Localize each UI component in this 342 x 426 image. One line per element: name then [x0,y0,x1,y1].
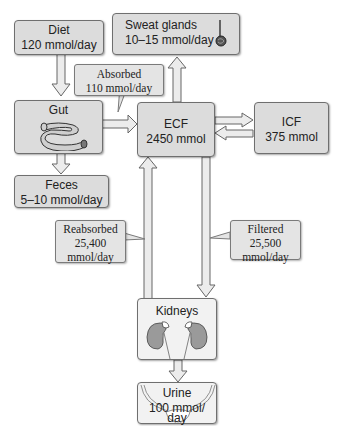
urine-title: Urine [138,386,216,401]
gut-node: Gut [14,100,103,154]
ecf-node: ECF 2450 mmol [137,102,215,157]
filtered-callout: Filtered 25,500 mmol/day [230,220,301,260]
flow-arrows [0,0,342,426]
kidneys-node: Kidneys [137,298,217,360]
arrow-diet-to-gut [52,54,70,96]
kidneys-title: Kidneys [138,304,216,319]
feces-value: 5–10 mmol/day [15,193,108,208]
ecf-value: 2450 mmol [138,132,214,147]
feces-title: Feces [15,178,108,193]
intestine-icon [39,119,89,151]
filtered-pointer [210,232,230,239]
arrow-gut-to-ecf [102,115,137,133]
reabsorbed-callout: Reabsorbed 25,400 mmol/day [55,220,126,263]
sweat-gland-icon [214,19,230,49]
filtered-label: Filtered [231,222,300,236]
gut-title: Gut [15,103,102,118]
arrow-ecf-to-icf [215,113,253,127]
arrow-ecf-to-kidneys [197,157,215,297]
reabsorbed-pointer [124,233,145,240]
icf-node: ICF 375 mmol [254,102,329,154]
arrow-icf-to-ecf [215,126,253,140]
feces-node: Feces 5–10 mmol/day [14,175,109,208]
absorbed-label: Absorbed [75,67,163,81]
filtered-unit: mmol/day [231,250,300,264]
filtered-value: 25,500 [231,236,300,250]
reabsorbed-unit: mmol/day [56,250,125,264]
diet-node: Diet 120 mmol/day [14,20,104,55]
ecf-title: ECF [138,117,214,132]
icf-title: ICF [255,115,328,130]
absorbed-value: 110 mmol/day [75,81,163,95]
urine-value-line2: day [137,411,217,426]
arrow-kidneys-to-ecf [139,157,157,299]
diet-value: 120 mmol/day [15,38,103,53]
reabsorbed-label: Reabsorbed [56,222,125,236]
diet-title: Diet [15,23,103,38]
sweat-glands-node: Sweat glands 10–15 mmol/day [112,13,240,55]
reabsorbed-value: 25,400 [56,236,125,250]
kidneys-icon [142,319,212,359]
absorbed-callout: Absorbed 110 mmol/day [74,64,164,96]
arrow-ecf-to-sweat [168,57,186,102]
arrow-gut-to-feces [52,153,70,174]
arrow-kidneys-to-urine [169,360,187,382]
icf-value: 375 mmol [255,130,328,145]
